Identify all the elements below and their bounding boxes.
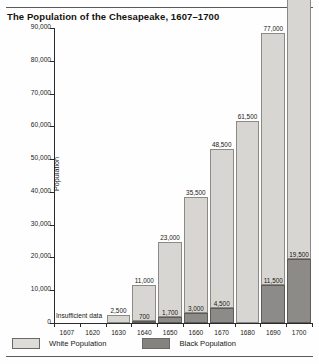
bar-value-label-white: 77,000 [264, 25, 284, 32]
bar-segment-white [287, 0, 311, 259]
x-tick-label: 1660 [189, 329, 204, 336]
y-tick-label: 50,000 [31, 154, 51, 161]
x-tick-mark [209, 323, 210, 327]
bar-segment-white [158, 242, 182, 317]
y-tick: 30,000 [54, 225, 55, 226]
x-tick-label: 1680 [240, 329, 255, 336]
x-tick-mark [157, 323, 158, 327]
bar-value-label-white: 2,500 [111, 307, 127, 314]
x-tick-label: 1630 [111, 329, 126, 336]
bar-segment-black [184, 313, 208, 323]
bar-value-label-white: 61,500 [238, 113, 258, 120]
y-tick-label: 80,000 [31, 56, 51, 63]
bar-segment-white [184, 197, 208, 313]
top-rule [6, 7, 313, 8]
y-axis-label: Population [52, 157, 61, 191]
bar-value-label-black: 700 [139, 313, 150, 320]
x-tick-label: 1620 [85, 329, 100, 336]
x-tick-mark [131, 323, 132, 327]
y-tick: 70,000 [54, 94, 55, 95]
chart-figure: The Population of the Chesapeake, 1607–1… [0, 0, 319, 364]
x-tick-mark [286, 323, 287, 327]
legend-item-white-population: White Population [12, 338, 106, 349]
legend-item-black-population: Black Population [142, 338, 236, 349]
y-tick: 20,000 [54, 257, 55, 258]
bar-value-label-white: 11,000 [135, 277, 154, 284]
bar-value-label-white: 35,500 [186, 189, 206, 196]
bar-segment-black [158, 317, 182, 323]
legend-label-black: Black Population [179, 339, 236, 348]
y-tick: 90,000 [54, 28, 55, 29]
x-tick-label: 1650 [163, 329, 178, 336]
y-tick-label: 30,000 [31, 220, 51, 227]
x-tick-mark [80, 323, 81, 327]
bar-segment-white [261, 33, 285, 285]
y-tick: 40,000 [54, 192, 55, 193]
bar-segment-black [287, 259, 311, 323]
bottom-rule [6, 356, 313, 357]
x-tick-label: 1640 [137, 329, 152, 336]
legend-label-white: White Population [49, 339, 106, 348]
chart-legend: White Population Black Population [12, 338, 236, 349]
y-tick-label: 40,000 [31, 187, 51, 194]
y-tick-label: 0 [47, 318, 51, 325]
bar-value-label-white: 23,000 [160, 234, 180, 241]
y-tick: 80,000 [54, 61, 55, 62]
legend-swatch-black [142, 338, 170, 349]
bar-segment-black [210, 308, 234, 323]
y-tick: 60,000 [54, 126, 55, 127]
x-tick-label: 1607 [60, 329, 75, 336]
y-tick-label: 10,000 [31, 285, 51, 292]
legend-swatch-white [12, 338, 40, 349]
x-tick-label: 1700 [292, 329, 307, 336]
bar-value-label-white: 48,500 [212, 141, 232, 148]
bar-value-label-black: 11,500 [264, 277, 283, 284]
y-tick: 50,000 [54, 159, 55, 160]
bar-value-label-black: 19,500 [289, 251, 309, 258]
bar-value-label-black: 4,500 [214, 300, 230, 307]
x-tick-mark [260, 323, 261, 327]
page-title: The Population of the Chesapeake, 1607–1… [7, 11, 219, 22]
x-tick-mark [106, 323, 107, 327]
bar-segment-white [210, 149, 234, 308]
bar-value-label-black: 3,000 [188, 305, 204, 312]
y-tick-label: 70,000 [31, 89, 51, 96]
bar-group [287, 0, 311, 323]
plot-area: Population 010,00020,00030,00040,00050,0… [54, 28, 312, 324]
y-tick-label: 90,000 [31, 23, 51, 30]
y-tick-label: 20,000 [31, 252, 51, 259]
x-tick-mark [183, 323, 184, 327]
y-tick-label: 60,000 [31, 121, 51, 128]
bar-segment-white [236, 121, 260, 323]
x-tick-mark [235, 323, 236, 327]
x-tick-label: 1690 [266, 329, 281, 336]
bar-group [184, 197, 208, 323]
x-tick-label: 1670 [214, 329, 229, 336]
y-tick: 10,000 [54, 290, 55, 291]
bar-group [210, 149, 234, 323]
bar-segment-white [107, 315, 131, 323]
x-tick-mark [312, 323, 313, 327]
bar-group [236, 121, 260, 323]
bar-segment-black [261, 285, 285, 323]
bar-group [107, 315, 131, 323]
bar-segment-black [132, 321, 156, 323]
insufficient-data-note: Insufficient data [56, 312, 102, 319]
x-tick-mark [54, 323, 55, 327]
bar-value-label-black: 1,700 [162, 309, 178, 316]
